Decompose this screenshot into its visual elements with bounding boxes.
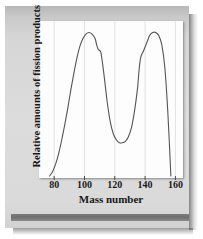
fission-yield-plot — [39, 21, 183, 178]
x-axis-title: Mass number — [39, 193, 183, 205]
y-axis-title: Relative amounts of fission products — [31, 8, 42, 168]
fission-yield-curve — [50, 32, 171, 176]
x-gridlines — [54, 21, 175, 178]
figure-bottom-rule — [11, 214, 189, 221]
panel-shadow-right — [189, 14, 198, 230]
plot-area — [39, 21, 183, 178]
panel-shadow-bottom — [13, 228, 193, 235]
x-axis-tick-marks — [39, 176, 185, 182]
fission-yield-figure: 80100120140160 Mass number Relative amou… — [0, 0, 203, 239]
